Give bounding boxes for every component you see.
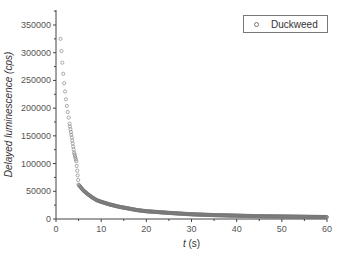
y-tick-label: 100000 bbox=[21, 159, 51, 169]
x-axis-title: t (s) bbox=[183, 238, 200, 249]
data-point bbox=[67, 116, 70, 119]
legend: Duckweed bbox=[243, 15, 328, 33]
x-tick-label: 0 bbox=[53, 224, 58, 234]
y-tick-label: 300000 bbox=[21, 48, 51, 58]
data-point bbox=[60, 49, 63, 52]
data-point bbox=[71, 142, 74, 145]
x-tick-label: 40 bbox=[232, 224, 242, 234]
data-point bbox=[72, 145, 75, 148]
circle-marker-icon bbox=[254, 22, 259, 27]
data-point bbox=[75, 164, 78, 167]
legend-label-duckweed: Duckweed bbox=[271, 19, 318, 30]
data-point bbox=[63, 82, 66, 85]
chart-plot-area: 0500001000001500002000002500003000003500… bbox=[0, 0, 338, 256]
data-point bbox=[61, 61, 64, 64]
data-point bbox=[76, 169, 79, 172]
data-point bbox=[64, 98, 67, 101]
y-tick-label: 350000 bbox=[21, 20, 51, 30]
y-axis-title: Delayed luminescence (cps) bbox=[3, 52, 14, 178]
data-point bbox=[76, 174, 79, 177]
x-tick-label: 20 bbox=[141, 224, 151, 234]
data-point bbox=[77, 178, 80, 181]
data-point bbox=[66, 110, 69, 113]
data-point bbox=[59, 37, 62, 40]
data-point bbox=[62, 72, 65, 75]
data-point bbox=[65, 104, 68, 107]
y-tick-label: 150000 bbox=[21, 131, 51, 141]
x-tick-label: 50 bbox=[277, 224, 287, 234]
y-tick-label: 50000 bbox=[26, 186, 51, 196]
data-point bbox=[71, 139, 74, 142]
y-tick-label: 0 bbox=[46, 214, 51, 224]
data-point bbox=[72, 148, 75, 151]
data-point bbox=[63, 90, 66, 93]
y-tick-label: 200000 bbox=[21, 103, 51, 113]
x-tick-label: 60 bbox=[322, 224, 332, 234]
y-tick-label: 250000 bbox=[21, 75, 51, 85]
x-tick-label: 10 bbox=[96, 224, 106, 234]
x-tick-label: 30 bbox=[186, 224, 196, 234]
